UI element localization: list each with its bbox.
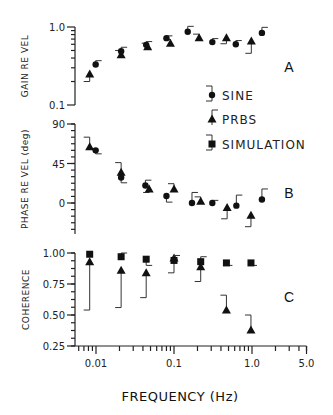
panel-label-B: B <box>284 185 293 201</box>
data-point-prbs <box>142 268 151 276</box>
x-tick-label: 5.0 <box>299 358 315 369</box>
panel-label-A: A <box>284 59 294 75</box>
x-axis-title: FREQUENCY (Hz) <box>121 389 238 404</box>
data-point-simulation <box>247 259 254 266</box>
y-tick-label: 0 <box>59 198 65 209</box>
data-point-prbs <box>170 184 179 192</box>
y-tick-label: 1.0 <box>49 22 65 33</box>
data-point-sine <box>142 182 148 188</box>
data-point-prbs <box>246 211 255 219</box>
data-point-prbs <box>222 306 231 314</box>
data-point-prbs <box>246 325 255 333</box>
data-point-prbs <box>247 37 256 45</box>
legend-item-prbs: PRBS <box>208 110 258 127</box>
y-tick-label: 0.25 <box>43 341 65 352</box>
legend-label: PRBS <box>222 113 257 127</box>
legend-marker-triangle <box>208 115 217 123</box>
data-point-sine <box>189 200 195 206</box>
data-point-sine <box>209 200 215 206</box>
y-axis-title-B: PHASE RE VEL (deg) <box>20 129 30 229</box>
legend-marker-square <box>209 141 216 148</box>
legend-item-sine: SINE <box>206 86 254 103</box>
legend: SINEPRBSSIMULATION <box>206 86 306 152</box>
y-tick-label: 0.75 <box>43 279 65 290</box>
legend-label: SIMULATION <box>222 138 306 152</box>
data-point-simulation <box>143 256 150 263</box>
data-point-prbs <box>196 197 205 205</box>
data-point-prbs <box>117 266 126 274</box>
y-axis-title-A: GAIN RE VEL <box>20 35 30 98</box>
x-tick-label: 0.1 <box>166 358 182 369</box>
data-point-simulation <box>223 259 230 266</box>
data-point-prbs <box>222 33 231 41</box>
data-point-simulation <box>118 253 125 260</box>
y-axis-title-C: COHERENCE <box>21 269 31 330</box>
legend-item-simulation: SIMULATION <box>206 135 306 152</box>
data-point-simulation <box>86 251 93 258</box>
x-tick-label: 1.0 <box>244 358 260 369</box>
data-point-sine <box>209 39 215 45</box>
data-point-sine <box>143 42 149 48</box>
data-point-sine <box>185 29 191 35</box>
y-tick-label: 0.50 <box>43 310 65 321</box>
data-point-prbs <box>223 203 232 211</box>
y-tick-label: 90 <box>52 119 65 130</box>
y-tick-label: 0.1 <box>49 100 65 111</box>
data-point-sine <box>259 196 265 202</box>
data-point-sine <box>92 61 98 67</box>
data-point-prbs <box>85 69 94 77</box>
chart: 1.00.1GAIN RE VELA90450PHASE RE VEL (deg… <box>0 0 333 415</box>
chart-marks <box>84 26 268 333</box>
data-point-sine <box>259 30 265 36</box>
legend-label: SINE <box>222 89 254 103</box>
y-tick-label: 1.00 <box>43 248 65 259</box>
y-tick-label: 45 <box>52 159 65 170</box>
data-point-simulation <box>171 257 178 264</box>
panel-label-C: C <box>284 289 294 305</box>
data-point-sine <box>233 202 239 208</box>
data-point-sine <box>163 193 169 199</box>
data-point-sine <box>118 48 124 54</box>
x-tick-label: 0.01 <box>85 358 107 369</box>
data-point-sine <box>233 41 239 47</box>
data-point-sine <box>163 35 169 41</box>
data-point-prbs <box>85 257 94 265</box>
data-point-simulation <box>197 258 204 265</box>
legend-marker-circle <box>209 92 215 98</box>
data-point-sine <box>118 174 124 180</box>
data-point-sine <box>92 147 98 153</box>
